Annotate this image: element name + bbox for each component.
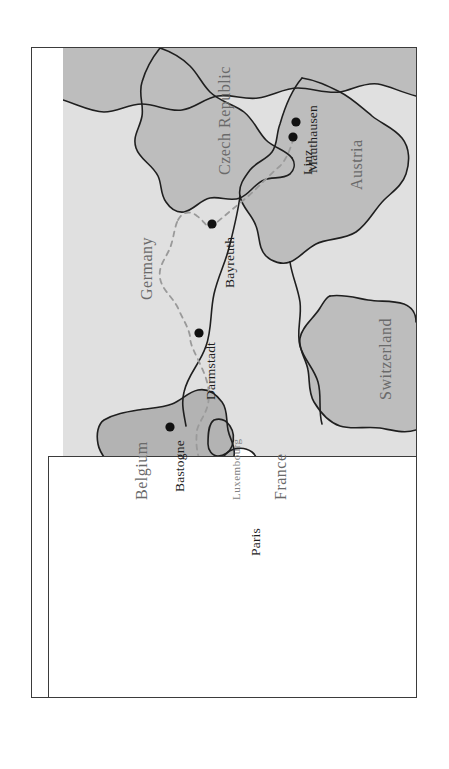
city-dot-linz — [288, 132, 297, 141]
city-dot-darmstadt — [194, 328, 203, 337]
map-figure: Germany Czech Republic Austria Switzerla… — [0, 0, 449, 769]
map-inset-frame — [48, 456, 417, 698]
city-dot-mauthausen — [291, 117, 300, 126]
city-dot-bastogne — [165, 422, 174, 431]
city-dot-bayreuth — [207, 219, 216, 228]
